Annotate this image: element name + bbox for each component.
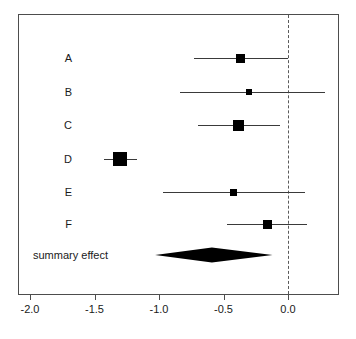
effect-estimate-marker [236, 54, 245, 63]
summary-diamond [0, 243, 356, 267]
effect-estimate-marker [113, 152, 127, 166]
study-label: C [0, 113, 72, 137]
study-row: F [0, 212, 356, 236]
axis-tick-mark [224, 295, 225, 300]
effect-estimate-marker [230, 189, 237, 196]
summary-row: summary effect [0, 243, 356, 267]
study-label: F [0, 212, 72, 236]
study-row: A [0, 46, 356, 70]
study-row: B [0, 80, 356, 104]
axis-tick-label: 0.0 [268, 303, 308, 315]
study-label: E [0, 180, 72, 204]
effect-estimate-marker [263, 220, 272, 229]
axis-tick-label: -1.0 [139, 303, 179, 315]
axis-tick-mark [159, 295, 160, 300]
study-row: C [0, 113, 356, 137]
axis-tick-mark [95, 295, 96, 300]
confidence-interval-line [180, 92, 326, 93]
axis-tick-label: -1.5 [75, 303, 115, 315]
study-label: A [0, 46, 72, 70]
axis-tick-mark [30, 295, 31, 300]
axis-tick-mark [288, 295, 289, 300]
forest-plot: ABCDEFsummary effect -2.0-1.5-1.0-0.50.0 [0, 0, 356, 339]
axis-tick-label: -0.5 [204, 303, 244, 315]
effect-estimate-marker [233, 120, 244, 131]
study-row: E [0, 180, 356, 204]
study-label: D [0, 147, 72, 171]
effect-estimate-marker [246, 89, 252, 95]
axis-tick-label: -2.0 [10, 303, 50, 315]
study-label: B [0, 80, 72, 104]
study-row: D [0, 147, 356, 171]
